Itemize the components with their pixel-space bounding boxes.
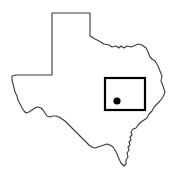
texas-locator-map-figure: Texas state outline locator map Black ou… bbox=[0, 0, 177, 178]
location-marker-dot bbox=[113, 97, 120, 104]
map-canvas bbox=[0, 0, 177, 178]
